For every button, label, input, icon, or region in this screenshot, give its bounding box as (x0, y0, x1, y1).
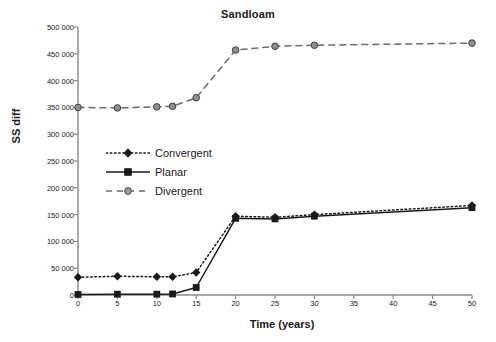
data-point-planar (153, 291, 160, 298)
chart-title: Sandloam (0, 8, 496, 20)
y-axis-tick-label: 500 000 (18, 23, 74, 32)
series-line-divergent (78, 43, 472, 108)
x-axis-tick-label: 40 (378, 299, 408, 308)
legend-item-divergent: Divergent (106, 181, 212, 200)
data-point-planar (114, 291, 121, 298)
data-point-planar (193, 284, 200, 291)
legend-swatch-planar (106, 165, 150, 179)
x-axis-tick-label: 45 (418, 299, 448, 308)
chart-figure: Sandloam SS diff Time (years) 050 000100… (0, 0, 496, 342)
x-axis-tick-label: 25 (260, 299, 290, 308)
data-point-divergent (232, 47, 239, 54)
data-point-planar (272, 215, 279, 222)
x-axis-tick-label: 20 (221, 299, 251, 308)
x-axis-tick-label: 15 (181, 299, 211, 308)
data-point-divergent (169, 103, 176, 110)
y-axis-tick-label: 200 000 (18, 183, 74, 192)
x-axis-tick-label: 10 (142, 299, 172, 308)
y-axis-tick-label: 300 000 (18, 130, 74, 139)
legend-item-planar: Planar (106, 162, 212, 181)
chart-legend: Convergent Planar Divergent (106, 143, 212, 200)
y-axis-tick-label: 50 000 (18, 264, 74, 273)
y-axis-tick-label: 450 000 (18, 49, 74, 58)
data-point-planar (75, 291, 82, 298)
legend-label-divergent: Divergent (155, 185, 202, 197)
x-axis-tick-label: 30 (299, 299, 329, 308)
y-axis-tick-label: 100 000 (18, 237, 74, 246)
data-point-convergent (113, 272, 121, 280)
legend-label-planar: Planar (155, 166, 187, 178)
data-point-divergent (469, 40, 476, 47)
x-axis-tick-label: 5 (102, 299, 132, 308)
data-point-planar (469, 204, 476, 211)
x-axis-label: Time (years) (78, 318, 486, 330)
legend-item-convergent: Convergent (106, 143, 212, 162)
y-axis-tick-label: 400 000 (18, 76, 74, 85)
data-point-planar (232, 215, 239, 222)
data-point-convergent (153, 273, 161, 281)
x-axis-tick-label: 35 (339, 299, 369, 308)
data-point-convergent (168, 273, 176, 281)
data-point-planar (311, 213, 318, 220)
legend-swatch-convergent (106, 146, 150, 160)
y-axis-tick-labels: 050 000100 000150 000200 000250 000300 0… (18, 0, 74, 342)
data-point-convergent (74, 273, 82, 281)
data-point-divergent (272, 43, 279, 50)
y-axis-tick-label: 250 000 (18, 157, 74, 166)
data-point-divergent (193, 94, 200, 101)
y-axis-tick-label: 350 000 (18, 103, 74, 112)
data-point-divergent (75, 104, 82, 111)
legend-label-convergent: Convergent (155, 147, 212, 159)
data-point-divergent (114, 105, 121, 112)
x-axis-tick-label: 50 (457, 299, 487, 308)
data-point-divergent (311, 42, 318, 49)
y-axis-tick-label: 150 000 (18, 210, 74, 219)
data-point-planar (169, 291, 176, 298)
data-point-divergent (154, 104, 161, 111)
x-axis-tick-label: 0 (63, 299, 93, 308)
plot-area (0, 0, 496, 342)
legend-swatch-divergent (106, 184, 150, 198)
